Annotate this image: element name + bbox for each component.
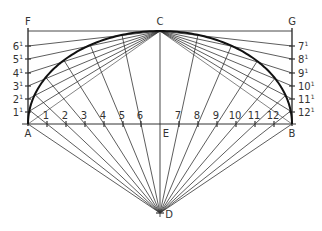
baseline-division-label: 5: [119, 110, 125, 121]
baseline-division-label: 12: [267, 110, 280, 121]
point-d-label: D: [165, 209, 173, 220]
point-f-label: F: [25, 16, 31, 27]
d-through-division-line: [160, 111, 291, 213]
baseline-division-label: 1: [43, 110, 49, 121]
point-a-label: A: [25, 128, 32, 139]
d-through-division-line: [160, 61, 257, 213]
right-division-label: 101: [298, 80, 315, 92]
d-through-division-line: [160, 78, 275, 213]
left-division-label: 51: [13, 53, 23, 65]
baseline-division-label: 4: [100, 110, 106, 121]
d-through-division-line: [64, 60, 160, 213]
c-to-right-division-line: [160, 31, 292, 73]
baseline-division-label: 6: [137, 110, 143, 121]
point-e-label: E: [163, 128, 169, 139]
frame: [22, 28, 296, 217]
left-division-label: 21: [13, 93, 23, 105]
left-division-label: 61: [13, 40, 23, 52]
point-b-label: B: [289, 128, 296, 139]
baseline-division-label: 7: [175, 110, 181, 121]
right-division-label: 71: [298, 40, 308, 52]
point-labels: FCGAEBD123456789101112615141312111718191…: [13, 16, 315, 220]
point-c-label: C: [157, 16, 164, 27]
right-division-label: 111: [298, 93, 315, 105]
d-through-division-line: [160, 45, 232, 213]
baseline-division-label: 11: [248, 110, 261, 121]
c-to-right-division-line: [160, 31, 292, 99]
baseline-division-label: 9: [213, 110, 219, 121]
left-division-label: 31: [13, 80, 23, 92]
baseline-division-label: 3: [81, 110, 87, 121]
right-division-label: 121: [298, 106, 315, 118]
d-through-division-line: [46, 77, 160, 213]
d-through-division-line: [29, 110, 160, 213]
c-to-left-division-line: [28, 31, 160, 99]
baseline-division-label: 10: [229, 110, 242, 121]
point-g-label: G: [288, 16, 296, 27]
right-division-label: 81: [298, 53, 308, 65]
right-division-label: 91: [298, 67, 308, 79]
baseline-division-label: 2: [62, 110, 68, 121]
baseline-division-label: 8: [194, 110, 200, 121]
d-to-b-line: [160, 124, 292, 213]
left-division-label: 11: [13, 106, 23, 118]
c-to-left-division-line: [28, 31, 160, 73]
d-to-a-line: [28, 124, 160, 213]
d-through-division-line: [90, 45, 160, 213]
left-division-label: 41: [13, 67, 23, 79]
construction-diagram: FCGAEBD123456789101112615141312111718191…: [0, 0, 322, 231]
